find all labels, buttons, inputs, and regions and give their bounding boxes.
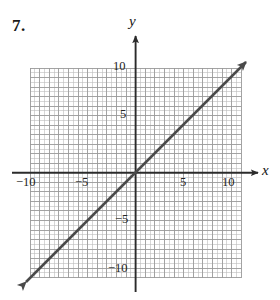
- y-tick-label-10: 10: [113, 60, 126, 73]
- x-tick-label-10: 10: [222, 176, 235, 189]
- y-axis-label: y: [129, 14, 136, 29]
- x-tick-label-neg5: −5: [75, 176, 88, 189]
- y-tick-label-neg10: −10: [108, 262, 128, 275]
- x-axis-label: x: [262, 163, 269, 178]
- coordinate-plane-svg: [0, 0, 280, 300]
- y-tick-label-5: 5: [120, 108, 126, 121]
- x-tick-label-5: 5: [180, 176, 186, 189]
- y-tick-label-neg5: −5: [115, 213, 128, 226]
- graph-figure: 7.: [0, 0, 280, 300]
- x-tick-label-neg10: −10: [16, 176, 36, 189]
- coordinate-plane: [0, 0, 280, 300]
